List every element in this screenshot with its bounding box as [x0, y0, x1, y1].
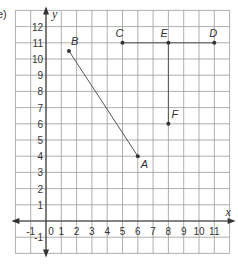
y-tick-label: 11	[33, 38, 44, 49]
point-label-F: F	[171, 108, 179, 120]
coordinate-grid: xy -101234567891011-1123456789101112 ABC…	[0, 0, 238, 266]
x-tick-label: 5	[120, 226, 126, 237]
y-tick-label: 7	[37, 103, 43, 114]
points: ABCDEF	[67, 27, 217, 170]
point-label-E: E	[160, 27, 168, 39]
x-axis-label: x	[225, 205, 232, 219]
point-label-D: D	[209, 27, 217, 39]
x-tick-label: 3	[89, 226, 95, 237]
tick-labels: -101234567891011-1123456789101112	[26, 22, 220, 244]
segment-BA	[69, 51, 138, 156]
point-B	[67, 49, 71, 53]
y-tick-label: 9	[37, 70, 43, 81]
x-tick-label: 9	[181, 226, 187, 237]
y-tick-label: 6	[37, 119, 43, 130]
y-tick-label: 8	[37, 86, 43, 97]
point-E	[166, 41, 170, 45]
x-tick-label: 8	[166, 226, 172, 237]
y-tick-label: -1	[34, 232, 43, 243]
y-tick-label: 3	[37, 167, 43, 178]
y-tick-label: 4	[37, 151, 43, 162]
y-tick-label: 10	[32, 54, 44, 65]
point-label-A: A	[140, 158, 148, 170]
point-label-B: B	[71, 35, 78, 47]
x-tick-label: 11	[209, 226, 220, 237]
point-C	[121, 41, 125, 45]
line-segments	[69, 43, 214, 156]
x-tick-label: 2	[74, 226, 80, 237]
y-tick-label: 5	[37, 135, 43, 146]
point-label-C: C	[116, 27, 124, 39]
x-tick-label: 4	[104, 226, 110, 237]
point-A	[136, 154, 140, 158]
x-tick-label: 0	[48, 226, 54, 237]
point-D	[212, 41, 216, 45]
y-tick-label: 12	[32, 22, 44, 33]
x-tick-label: 10	[193, 226, 205, 237]
x-tick-label: 1	[59, 226, 65, 237]
y-axis-label: y	[51, 7, 58, 21]
y-tick-label: 1	[37, 200, 43, 211]
x-tick-label: 7	[150, 226, 156, 237]
y-tick-label: 2	[37, 184, 43, 195]
x-tick-label: 6	[135, 226, 141, 237]
point-F	[166, 122, 170, 126]
